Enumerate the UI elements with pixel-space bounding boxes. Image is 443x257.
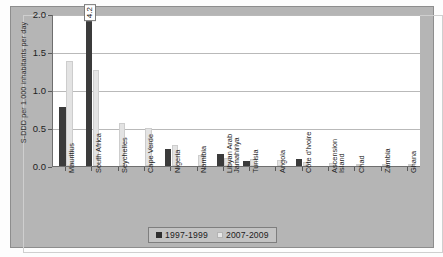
x-tick-label: Namibia <box>200 146 208 173</box>
x-tick-mark <box>118 167 119 171</box>
x-tick-label: Nigeria <box>174 150 182 173</box>
x-tick-mark <box>381 167 382 171</box>
y-axis-title: S-DDD per 1.000 inhabitants per day <box>19 0 28 168</box>
x-tick-label: Mauritius <box>68 143 76 173</box>
x-tick-mark <box>170 167 171 171</box>
y-tick-label-0.0: 0.0 <box>20 162 46 171</box>
x-tick-label: Seychelles <box>121 137 129 173</box>
x-tick-mark <box>223 167 224 171</box>
x-tick-label: Chad <box>358 155 366 173</box>
x-tick-mark <box>407 167 408 171</box>
legend-item-2007-2009: 2007-2009 <box>217 230 269 240</box>
x-tick-label: South Africa <box>95 133 103 173</box>
x-tick-mark <box>144 167 145 171</box>
x-tick-mark <box>275 167 276 171</box>
x-tick-label: Ghana <box>410 151 418 173</box>
x-tick-label: Tunisia <box>252 149 260 173</box>
legend-label-series-0: 1997-1999 <box>165 230 208 240</box>
x-tick-label: Angola <box>279 150 287 173</box>
legend-swatch-icon-series-0 <box>156 232 162 238</box>
chart-legend: 1997-1999 2007-2009 <box>148 227 277 243</box>
bar <box>59 107 65 166</box>
bar <box>165 149 171 166</box>
y-tick-mark-0.0 <box>48 167 52 168</box>
x-tick-label: Libyan ArabJamahiriya <box>226 134 241 173</box>
legend-label-series-1: 2007-2009 <box>226 230 269 240</box>
bar <box>243 161 249 166</box>
x-tick-mark <box>354 167 355 171</box>
bar <box>86 14 92 166</box>
x-tick-mark <box>65 167 66 171</box>
x-tick-label: AscensionIsland <box>331 139 346 173</box>
x-tick-label: Côte d'Ivoire <box>305 132 313 173</box>
x-tick-mark <box>302 167 303 171</box>
x-tick-mark <box>91 167 92 171</box>
bar <box>217 154 223 166</box>
x-tick-label: Cape Verde <box>147 134 155 173</box>
y-tick-label-0.5: 0.5 <box>20 124 46 133</box>
y-tick-label-2.0: 2.0 <box>20 10 46 19</box>
legend-item-1997-1999: 1997-1999 <box>156 230 208 240</box>
x-tick-mark <box>197 167 198 171</box>
x-tick-mark <box>328 167 329 171</box>
y-tick-label-1.5: 1.5 <box>20 48 46 57</box>
bar <box>296 159 302 166</box>
x-tick-mark <box>249 167 250 171</box>
x-tick-label: Zambia <box>384 148 392 173</box>
legend-swatch-icon-series-1 <box>217 232 223 238</box>
bar-value-label: 4.2 <box>84 4 96 21</box>
y-tick-label-1.0: 1.0 <box>20 86 46 95</box>
